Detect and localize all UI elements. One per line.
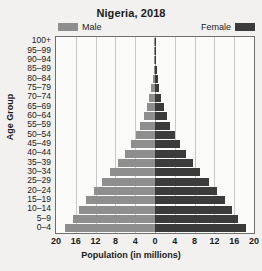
bar-row [56,178,254,186]
bar-female [155,56,156,64]
bar-male [147,103,155,111]
bar-male [73,215,155,223]
bar-row [56,38,254,46]
bar-male [144,112,155,120]
bar-male [65,224,155,232]
bar-female [155,224,246,232]
y-axis-label: 10–14 [27,204,51,213]
bar-row [56,47,254,55]
bar-row [56,150,254,158]
bar-row [56,168,254,176]
bar-row [56,94,254,102]
y-axis-label: 25–29 [27,176,51,185]
legend-swatch-male [58,23,78,31]
bar-female [155,66,157,74]
bar-row [56,103,254,111]
legend-label-female: Female [201,23,231,32]
bar-row [56,122,254,130]
legend-swatch-female [235,23,255,31]
bar-female [155,150,186,158]
y-axis-label: 85–89 [27,64,51,73]
bar-male [102,178,155,186]
bar-female [155,140,180,148]
bar-female [155,122,170,130]
bar-female [155,131,175,139]
bar-female [155,75,158,83]
bar-row [56,84,254,92]
bar-row [56,196,254,204]
y-axis-label: 70–74 [27,92,51,101]
bar-male [140,122,155,130]
bar-row [56,206,254,214]
bar-male [79,206,155,214]
bar-female [155,94,161,102]
bar-male [136,131,155,139]
x-axis-tick: 20 [242,236,262,247]
legend-male: Male [58,22,102,32]
bar-row [56,112,254,120]
bar-row [56,66,254,74]
x-axis-title: Population (in millions) [0,250,262,260]
legend-label-male: Male [82,23,102,32]
bar-row [56,215,254,223]
bar-row [56,75,254,83]
bar-male [110,168,155,176]
bar-female [155,112,167,120]
bar-female [155,206,232,214]
x-axis-ticks: 20161284048121620 [0,236,262,248]
bar-row [56,56,254,64]
bar-female [155,159,193,167]
bar-female [155,196,225,204]
bar-male [86,196,155,204]
y-axis-label: 55–59 [27,120,51,129]
bar-female [155,168,200,176]
bar-row [56,159,254,167]
population-pyramid-chart: Nigeria, 2018 Male Female 100+95–9990–94… [0,0,262,271]
bar-row [56,187,254,195]
plot-area [55,36,255,234]
y-axis-label: 100+ [32,36,51,45]
bar-male [118,159,155,167]
chart-title: Nigeria, 2018 [0,7,262,19]
bar-male [125,150,155,158]
bar-female [155,178,209,186]
bar-rows [56,37,254,233]
bar-female [155,38,156,46]
y-axis-label: 40–44 [27,148,51,157]
y-axis-title: Age Group [5,81,15,153]
bar-female [155,84,159,92]
bar-row [56,224,254,232]
bar-male [94,187,155,195]
bar-male [131,140,155,148]
y-axis-label: 0–4 [37,223,51,232]
bar-female [155,187,217,195]
bar-row [56,131,254,139]
bar-female [155,215,238,223]
bar-female [155,103,164,111]
legend-female: Female [201,22,255,32]
bar-female [155,47,156,55]
bar-row [56,140,254,148]
